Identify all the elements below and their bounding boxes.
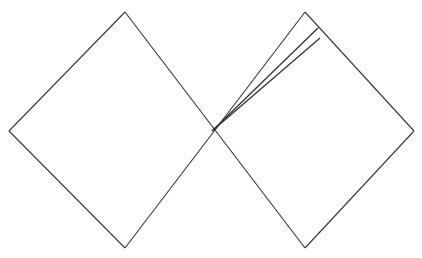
upper-left-null-boundary xyxy=(9,12,125,131)
horizons xyxy=(125,12,305,248)
delta-wedge-upper-edge xyxy=(212,28,318,131)
lower-left-null-boundary xyxy=(9,131,125,248)
delta-wedge xyxy=(212,28,320,131)
delta-wedge-lower-edge xyxy=(212,38,320,131)
penrose-diagram-canvas xyxy=(0,0,422,258)
lower-right-null-boundary xyxy=(305,131,414,248)
upper-right-null-boundary xyxy=(305,12,414,131)
outer-boundaries xyxy=(9,12,414,248)
penrose-diagram-svg xyxy=(0,0,422,258)
